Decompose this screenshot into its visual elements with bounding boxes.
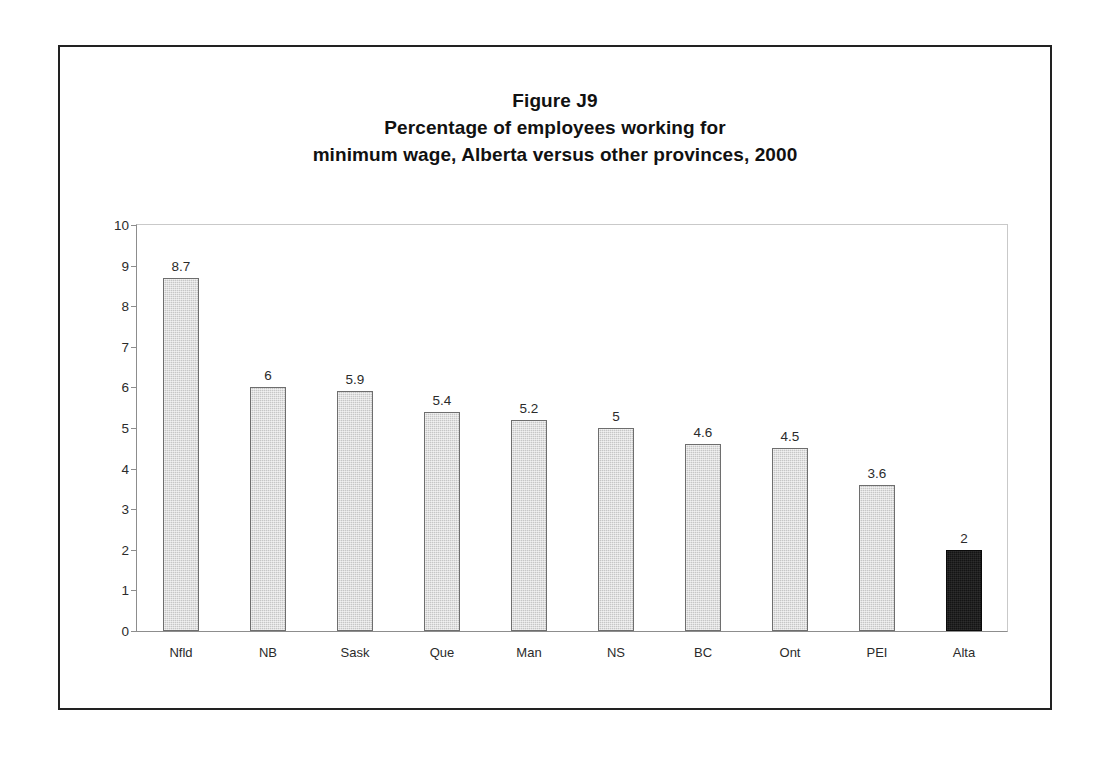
bar-group: 4.6 bbox=[685, 225, 721, 631]
bar-nfld[interactable] bbox=[163, 278, 199, 631]
x-axis-label-nb: NB bbox=[223, 645, 313, 660]
x-axis-label-sask: Sask bbox=[310, 645, 400, 660]
y-axis-tick-label: 7 bbox=[77, 339, 129, 354]
y-axis-tick-label: 2 bbox=[77, 542, 129, 557]
bar-ns[interactable] bbox=[598, 428, 634, 631]
title-line-2: Percentage of employees working for bbox=[60, 114, 1050, 141]
y-axis-tick-mark bbox=[131, 347, 137, 348]
x-axis-label-man: Man bbox=[484, 645, 574, 660]
y-axis-tick-label: 0 bbox=[77, 624, 129, 639]
y-axis-tick-mark bbox=[131, 428, 137, 429]
y-axis-tick-label: 4 bbox=[77, 461, 129, 476]
bar-nb[interactable] bbox=[250, 387, 286, 631]
bar-value-label: 8.7 bbox=[141, 259, 221, 274]
x-axis-label-bc: BC bbox=[658, 645, 748, 660]
bar-value-label: 6 bbox=[228, 368, 308, 383]
bar-pei[interactable] bbox=[859, 485, 895, 631]
bar-group: 3.6 bbox=[859, 225, 895, 631]
bar-que[interactable] bbox=[424, 412, 460, 631]
bar-bc[interactable] bbox=[685, 444, 721, 631]
bar-group: 5 bbox=[598, 225, 634, 631]
bar-alta[interactable] bbox=[946, 550, 982, 631]
bar-value-label: 3.6 bbox=[837, 466, 917, 481]
bar-value-label: 5.9 bbox=[315, 372, 395, 387]
y-axis-tick-label: 3 bbox=[77, 502, 129, 517]
bar-group: 5.9 bbox=[337, 225, 373, 631]
x-axis-label-ont: Ont bbox=[745, 645, 835, 660]
x-axis-label-nfld: Nfld bbox=[136, 645, 226, 660]
bar-sask[interactable] bbox=[337, 391, 373, 631]
y-axis-tick-label: 9 bbox=[77, 258, 129, 273]
title-line-3: minimum wage, Alberta versus other provi… bbox=[60, 141, 1050, 168]
y-axis-tick-mark bbox=[131, 387, 137, 388]
bar-group: 8.7 bbox=[163, 225, 199, 631]
y-axis-tick-label: 5 bbox=[77, 421, 129, 436]
y-axis-tick-mark bbox=[131, 590, 137, 591]
y-axis-tick-label: 1 bbox=[77, 583, 129, 598]
y-axis-tick-mark bbox=[131, 509, 137, 510]
y-axis-tick-mark bbox=[131, 225, 137, 226]
chart-title: Figure J9 Percentage of employees workin… bbox=[60, 87, 1050, 168]
x-axis-label-pei: PEI bbox=[832, 645, 922, 660]
bar-group: 2 bbox=[946, 225, 982, 631]
bar-group: 5.4 bbox=[424, 225, 460, 631]
y-axis-tick-mark bbox=[131, 266, 137, 267]
y-axis-tick-mark bbox=[131, 306, 137, 307]
title-line-1: Figure J9 bbox=[60, 87, 1050, 114]
bar-value-label: 4.5 bbox=[750, 429, 830, 444]
bar-value-label: 5.2 bbox=[489, 401, 569, 416]
figure-border: Figure J9 Percentage of employees workin… bbox=[58, 45, 1052, 710]
y-axis-tick-label: 6 bbox=[77, 380, 129, 395]
y-axis-tick-mark bbox=[131, 469, 137, 470]
y-axis-tick-mark bbox=[131, 550, 137, 551]
x-axis-label-que: Que bbox=[397, 645, 487, 660]
bar-group: 4.5 bbox=[772, 225, 808, 631]
y-axis-tick-label: 10 bbox=[77, 218, 129, 233]
x-axis-label-alta: Alta bbox=[919, 645, 1009, 660]
bar-group: 6 bbox=[250, 225, 286, 631]
y-axis-tick-label: 8 bbox=[77, 299, 129, 314]
bar-value-label: 2 bbox=[924, 531, 1004, 546]
y-axis-tick-mark bbox=[131, 631, 137, 632]
bar-value-label: 4.6 bbox=[663, 425, 743, 440]
x-axis-label-ns: NS bbox=[571, 645, 661, 660]
bar-ont[interactable] bbox=[772, 448, 808, 631]
plot-area: 109876543210 8.765.95.45.254.64.53.62 Nf… bbox=[136, 224, 1008, 632]
bar-man[interactable] bbox=[511, 420, 547, 631]
bar-value-label: 5.4 bbox=[402, 393, 482, 408]
bar-group: 5.2 bbox=[511, 225, 547, 631]
bar-value-label: 5 bbox=[576, 409, 656, 424]
